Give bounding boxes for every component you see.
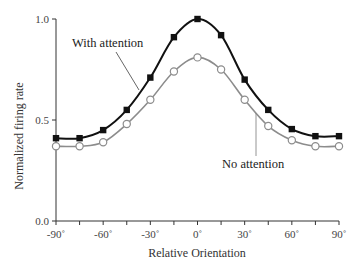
x-tick-label: 90˚ — [332, 228, 347, 240]
with-attention-leader-line — [116, 52, 139, 90]
y-axis-title: Normalized firing rate — [12, 82, 26, 189]
tuning-curve-chart: 0.00.51.0-90˚-60˚-30˚0˚30˚60˚90˚ With at… — [0, 0, 361, 269]
filled-square-marker — [265, 107, 271, 113]
open-circle-marker — [265, 122, 272, 129]
annotations: With attention No attention — [72, 36, 285, 171]
x-axis-title: Relative Orientation — [148, 246, 246, 260]
filled-square-marker — [194, 16, 200, 22]
filled-square-marker — [100, 127, 106, 133]
x-tick-label: 60˚ — [284, 228, 299, 240]
filled-square-marker — [312, 133, 318, 139]
open-circle-marker — [241, 96, 248, 103]
open-circle-marker — [217, 66, 224, 73]
x-tick-label: -30˚ — [141, 228, 159, 240]
filled-square-marker — [241, 76, 247, 82]
open-circle-marker — [335, 143, 342, 150]
filled-square-marker — [147, 74, 153, 80]
open-circle-marker — [100, 139, 107, 146]
filled-square-marker — [76, 135, 82, 141]
filled-square-marker — [218, 32, 224, 38]
open-circle-marker — [76, 143, 83, 150]
y-tick-label: 1.0 — [35, 13, 49, 25]
filled-square-marker — [53, 135, 59, 141]
y-tick-label: 0.5 — [35, 114, 49, 126]
filled-square-marker — [336, 133, 342, 139]
x-tick-label: -90˚ — [47, 228, 65, 240]
filled-square-marker — [171, 34, 177, 40]
with-attention-series — [53, 16, 342, 142]
y-tick-label: 0.0 — [35, 215, 49, 227]
filled-square-marker — [289, 126, 295, 132]
x-tick-label: -60˚ — [94, 228, 112, 240]
x-tick-label: 30˚ — [237, 228, 252, 240]
open-circle-marker — [52, 143, 59, 150]
x-tick-label: 0˚ — [193, 228, 202, 240]
no-attention-series — [52, 54, 342, 150]
open-circle-marker — [170, 68, 177, 75]
open-circle-marker — [147, 96, 154, 103]
open-circle-marker — [312, 143, 319, 150]
filled-square-marker — [124, 107, 130, 113]
open-circle-marker — [194, 54, 201, 61]
open-circle-marker — [123, 120, 130, 127]
no-attention-label: No attention — [222, 157, 285, 171]
with-attention-label: With attention — [72, 36, 144, 50]
open-circle-marker — [288, 137, 295, 144]
